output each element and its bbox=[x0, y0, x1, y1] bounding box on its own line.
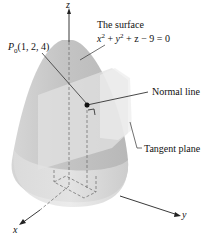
tangent-plane-front bbox=[100, 68, 132, 140]
y-axis bbox=[120, 196, 178, 215]
y-axis-label: y bbox=[182, 210, 186, 220]
normal-line-label: Normal line bbox=[152, 87, 200, 97]
x-axis-label: x bbox=[13, 225, 17, 235]
surface-equation: x2 + y2 + z − 9 = 0 bbox=[97, 34, 170, 44]
x-axis-arrow bbox=[19, 219, 26, 225]
point-p0 bbox=[85, 103, 90, 108]
surface-label: The surface bbox=[97, 20, 144, 30]
x-axis bbox=[22, 210, 40, 223]
point-label: P0(1, 2, 4) bbox=[8, 42, 49, 52]
tangent-plane-label: Tangent plane bbox=[144, 144, 200, 154]
y-axis-arrow bbox=[174, 212, 181, 217]
z-axis-label: z bbox=[66, 0, 70, 10]
